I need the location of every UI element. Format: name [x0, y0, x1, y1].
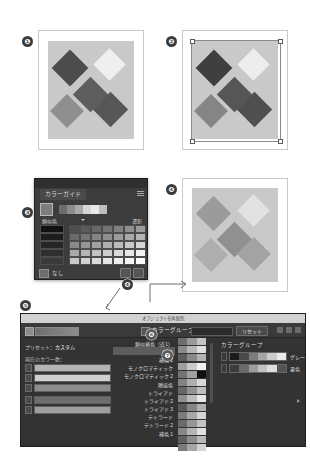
color-row[interactable]: [25, 374, 111, 382]
dialog-title: オブジェクトを再配色: [21, 314, 305, 323]
group-handle-icon[interactable]: [221, 352, 227, 361]
color-group-label: グレー: [290, 353, 305, 360]
panel-titlebar[interactable]: [35, 179, 147, 188]
harmony-rule-dropdown-arrow[interactable]: [63, 217, 85, 223]
swatch-strip: [178, 346, 206, 353]
base-color-swatch[interactable]: [40, 203, 53, 216]
artboard-original-canvas: [48, 41, 134, 139]
harmony-label: 補色 1: [159, 430, 173, 437]
panel-menu-icon[interactable]: [137, 191, 144, 197]
preset-label: プリセット：: [25, 344, 55, 350]
color-row[interactable]: [25, 406, 111, 414]
artboard-selected-frame: [182, 30, 288, 150]
recolor-artwork-dialog[interactable]: オブジェクトを再配色 カラーグループ リセット プリセット：カスタム 現在のカラ…: [20, 313, 306, 447]
color-group-ramp[interactable]: [229, 352, 287, 361]
active-color-sequence[interactable]: [59, 205, 107, 214]
color-group-row[interactable]: グレー: [221, 352, 310, 361]
selection-handle-bl[interactable]: [190, 139, 195, 144]
preset-row[interactable]: プリセット：カスタム: [25, 343, 111, 350]
variation-label: 濃影: [132, 217, 142, 224]
callout-3: ❸: [22, 207, 33, 218]
callout-4-artboard: ❹: [166, 184, 177, 195]
color-group-field[interactable]: [191, 327, 233, 336]
diamond-dark: [196, 196, 231, 231]
color-guide-active-row: [40, 203, 107, 216]
selection-handle-tr[interactable]: [278, 39, 283, 44]
harmony-item[interactable]: トライアド 3: [113, 405, 175, 413]
color-variation-grid[interactable]: [69, 225, 146, 265]
color-group-ramp[interactable]: [229, 364, 287, 373]
harmony-label: トライアド 2: [144, 397, 173, 404]
harmony-label: トライアド: [148, 389, 173, 396]
color-row[interactable]: [25, 364, 111, 372]
current-color-bar[interactable]: [35, 327, 79, 336]
harmony-item[interactable]: トライアド 2: [113, 396, 175, 404]
swatch-strip: [178, 428, 206, 435]
harmony-item[interactable]: 補色 1: [113, 429, 175, 437]
color-group-panel: カラーグループ グレー 暑色: [221, 341, 310, 376]
harmony-label: テトラード: [148, 413, 173, 420]
swatch-strip: [178, 371, 206, 378]
harmony-item[interactable]: 隣接色: [113, 380, 175, 388]
selection-handle-tl[interactable]: [190, 39, 195, 44]
harmony-item[interactable]: 類似横色（近1）: [113, 339, 175, 347]
swatch-strip: [178, 354, 206, 361]
callout-1: ❶: [22, 36, 33, 47]
color-guide-labels: 類似色 濃影: [42, 217, 142, 224]
diamond-light: [93, 48, 126, 81]
swatch-strip-column[interactable]: [178, 338, 206, 453]
swatch-strip: [178, 338, 206, 345]
artboard-original-frame: [38, 30, 144, 150]
dialog-toolbar: カラーグループ リセット: [21, 323, 305, 338]
current-colors-label: 現在のカラー数：: [25, 355, 111, 362]
harmony-item[interactable]: テトラード 2: [113, 421, 175, 429]
harmony-label: モノクロマティック 2: [124, 372, 173, 379]
harmony-item[interactable]: モノクロマティック 2: [113, 372, 175, 380]
dark-variation-column[interactable]: [40, 225, 64, 265]
row-handle-icon[interactable]: [25, 384, 32, 392]
swatch-strip: [178, 379, 206, 386]
color-group-header: カラーグループ: [221, 341, 310, 349]
preset-value[interactable]: カスタム: [55, 344, 75, 350]
dialog-titlebar[interactable]: オブジェクトを再配色: [21, 314, 305, 323]
color-row[interactable]: [25, 384, 111, 392]
harmony-label: トライアド 3: [144, 405, 173, 412]
callout-6: ❻: [146, 329, 157, 340]
harmony-rule-label[interactable]: 類似色: [42, 217, 57, 224]
selection-bounding-box[interactable]: [191, 40, 281, 142]
row-handle-icon[interactable]: [25, 374, 32, 382]
row-handle-icon[interactable]: [25, 396, 32, 404]
harmony-list-scrollbar[interactable]: [210, 343, 213, 403]
harmony-item[interactable]: トライアド: [113, 388, 175, 396]
harmony-item[interactable]: テトラード: [113, 413, 175, 421]
swatch-strip: [178, 444, 206, 451]
diamond-dark: [52, 50, 89, 87]
swatch-strip: [178, 412, 206, 419]
preset-panel: プリセット：カスタム 現在のカラー数：: [25, 343, 111, 416]
harmony-item[interactable]: モノクロマティック: [113, 364, 175, 372]
group-handle-icon[interactable]: [221, 364, 227, 373]
harmony-label: テトラード 2: [144, 421, 173, 428]
color-row[interactable]: [25, 396, 111, 404]
callout-4: ❹: [122, 279, 133, 290]
warning-icon[interactable]: [277, 327, 283, 333]
diamond-light: [237, 194, 270, 227]
swatch-strip: [178, 436, 206, 443]
compare-icon[interactable]: [286, 327, 292, 333]
reset-button[interactable]: リセット: [236, 326, 268, 336]
current-color-icon[interactable]: [25, 327, 34, 336]
callout-5: ❺: [20, 300, 31, 311]
color-group-toolbar-label: カラーグループ: [152, 327, 194, 334]
swatch-strip: [178, 395, 206, 402]
harmony-label: モノクロマティック: [128, 364, 173, 371]
color-group-row[interactable]: 暑色: [221, 364, 310, 373]
selection-handle-br[interactable]: [278, 139, 283, 144]
row-handle-icon[interactable]: [25, 364, 32, 372]
row-handle-icon[interactable]: [25, 406, 32, 414]
panel-menu-icon[interactable]: [295, 327, 301, 333]
swatch-strip: [178, 404, 206, 411]
harmony-label: 隣接色: [158, 381, 173, 388]
callout-2: ❷: [166, 36, 177, 47]
expand-arrow-icon[interactable]: [297, 399, 300, 403]
color-guide-tab[interactable]: カラーガイド: [40, 189, 86, 200]
